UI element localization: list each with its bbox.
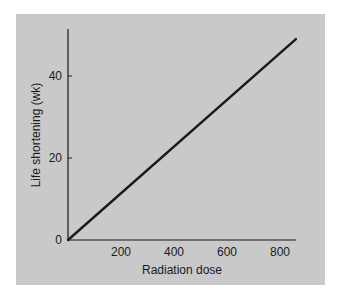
y-axis-title: Life shortening (wk) <box>29 83 43 188</box>
y-tick-label: 0 <box>55 233 62 247</box>
x-tick-label: 200 <box>111 245 131 259</box>
data-line <box>68 39 296 240</box>
y-tick-label: 40 <box>49 69 63 83</box>
x-tick-label: 400 <box>164 245 184 259</box>
x-tick-label: 800 <box>270 245 290 259</box>
x-ticks: 200400600800 <box>111 245 290 259</box>
x-tick-label: 600 <box>217 245 237 259</box>
y-tick-label: 20 <box>49 151 63 165</box>
line-chart: 02040 200400600800 Radiation dose Life s… <box>0 0 339 298</box>
x-axis-title: Radiation dose <box>142 263 222 277</box>
